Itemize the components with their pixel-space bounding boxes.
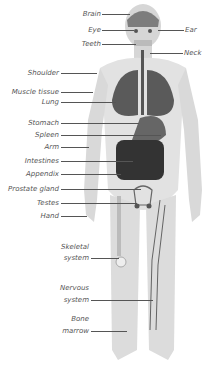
label-intestines: Intestines: [25, 157, 59, 165]
label-eye: Eye: [88, 26, 101, 34]
label-nervous: Nervous: [60, 284, 89, 292]
label-muscle-tissue: Muscle tissue: [12, 88, 59, 96]
label-prostate-gland: Prostate gland: [8, 185, 59, 193]
label-hand: Hand: [41, 212, 59, 220]
label-ear: Ear: [185, 26, 197, 34]
label-testes: Testes: [37, 199, 59, 207]
right-leg: [146, 195, 176, 360]
label-neck: Neck: [184, 49, 201, 57]
label-shoulder: Shoulder: [28, 69, 59, 77]
label-stomach: Stomach: [28, 119, 59, 127]
label-marrow: marrow: [62, 327, 89, 335]
intestines: [116, 140, 164, 180]
label-bone: Bone: [71, 315, 89, 323]
label-appendix: Appendix: [26, 170, 59, 178]
label-skeletal: Skeletal: [61, 243, 89, 251]
label-nervous-2: system: [64, 296, 89, 304]
label-teeth: Teeth: [82, 40, 101, 48]
label-brain: Brain: [83, 10, 101, 18]
label-lung: Lung: [42, 98, 59, 106]
label-skeletal-2: system: [64, 254, 89, 262]
left-leg: [110, 195, 140, 360]
label-spleen: Spleen: [35, 131, 59, 139]
label-arm: Arm: [45, 143, 60, 151]
right-arm: [178, 68, 202, 222]
